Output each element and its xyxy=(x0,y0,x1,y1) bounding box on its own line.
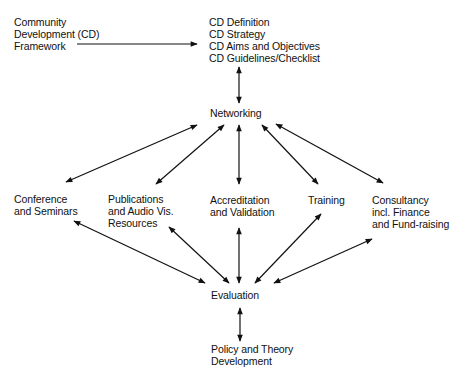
node-evaluation: Evaluation xyxy=(211,289,259,301)
node-publications-line: Resources xyxy=(108,217,174,229)
arrow-networking-conference xyxy=(66,125,197,182)
node-consultancy-line: Consultancy xyxy=(372,194,449,206)
node-cd-aims: CD Aims and Objectives xyxy=(209,40,320,52)
node-training: Training xyxy=(308,194,345,206)
node-consultancy-line: and Fund-raising xyxy=(372,218,449,230)
node-conference-line: Conference xyxy=(14,193,78,205)
node-cd-guidelines: CD Guidelines/Checklist xyxy=(209,52,320,64)
arrow-networking-training xyxy=(262,125,318,184)
node-evaluation-label: Evaluation xyxy=(211,289,259,301)
arrow-networking-publications xyxy=(156,125,224,184)
arrow-consultancy-evaluation xyxy=(274,239,372,283)
arrow-networking-consultancy xyxy=(276,124,383,183)
arrow-conference-evaluation xyxy=(74,221,205,283)
node-framework: Community Development (CD) Framework xyxy=(14,16,99,52)
node-accreditation: Accreditation and Validation xyxy=(210,194,274,218)
node-consultancy: Consultancy incl. Finance and Fund-raisi… xyxy=(372,194,449,230)
node-accreditation-line: Accreditation xyxy=(210,194,274,206)
arrow-publications-evaluation xyxy=(169,227,229,283)
node-networking-label: Networking xyxy=(210,107,262,119)
node-conference-line: and Seminars xyxy=(14,205,78,217)
node-networking: Networking xyxy=(210,107,262,119)
node-publications: Publications and Audio Vis. Resources xyxy=(108,193,174,229)
node-cd-strategy: CD Strategy xyxy=(209,28,320,40)
node-training-label: Training xyxy=(308,194,345,206)
node-policy-line: Development xyxy=(211,355,293,367)
node-framework-line: Framework xyxy=(14,40,99,52)
node-policy: Policy and Theory Development xyxy=(211,343,293,367)
arrow-training-evaluation xyxy=(255,214,321,283)
node-cd-definition: CD Definition xyxy=(209,16,320,28)
node-conference: Conference and Seminars xyxy=(14,193,78,217)
node-publications-line: Publications xyxy=(108,193,174,205)
node-publications-line: and Audio Vis. xyxy=(108,205,174,217)
node-policy-line: Policy and Theory xyxy=(211,343,293,355)
node-framework-line: Development (CD) xyxy=(14,28,99,40)
node-framework-line: Community xyxy=(14,16,99,28)
node-accreditation-line: and Validation xyxy=(210,206,274,218)
node-consultancy-line: incl. Finance xyxy=(372,206,449,218)
node-cd-block: CD Definition CD Strategy CD Aims and Ob… xyxy=(209,16,320,64)
